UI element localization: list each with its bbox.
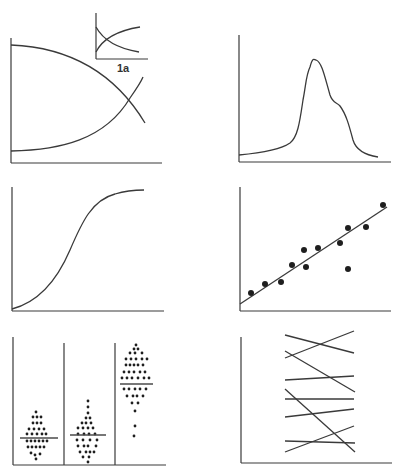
increasing-curve xyxy=(11,77,143,151)
inset-increasing-curve xyxy=(96,27,140,52)
data-point xyxy=(315,245,321,251)
inset-decreasing-curve xyxy=(96,27,139,52)
data-point xyxy=(380,202,386,208)
inset-chart: 1a xyxy=(96,13,148,74)
panel-2-distribution xyxy=(239,35,391,162)
panel-3-sigmoid xyxy=(12,187,164,311)
regression-line xyxy=(240,207,387,304)
distribution-curve xyxy=(239,59,378,157)
panel-1-crossing-curves: 1a xyxy=(11,13,162,163)
data-point xyxy=(262,281,268,287)
slope-line xyxy=(285,351,355,392)
slope-line xyxy=(285,409,354,417)
dot-group-1 xyxy=(20,411,58,461)
panel-5-dot-plots xyxy=(13,337,166,465)
data-point xyxy=(289,262,295,268)
data-point xyxy=(301,247,307,253)
data-point xyxy=(278,279,284,285)
panel-4-scatter xyxy=(240,187,391,311)
inset-label: 1a xyxy=(117,62,130,74)
data-point xyxy=(303,264,309,270)
scatter-points xyxy=(248,202,386,296)
data-point xyxy=(337,240,343,246)
dot-group-2 xyxy=(70,400,106,464)
data-point xyxy=(345,225,351,231)
data-point xyxy=(248,290,254,296)
chart-figure: 1a xyxy=(0,0,398,473)
sigmoid-curve xyxy=(12,190,144,309)
slope-line xyxy=(285,426,354,452)
decreasing-curve xyxy=(11,45,145,123)
data-point xyxy=(345,266,351,272)
data-point xyxy=(363,224,369,230)
slope-line xyxy=(285,331,354,358)
dot-group-3 xyxy=(120,344,153,438)
slope-line xyxy=(285,376,354,380)
panel-6-slope-lines xyxy=(241,331,392,463)
